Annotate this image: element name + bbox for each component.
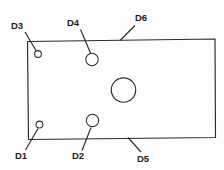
plate-drawing-svg [0, 0, 224, 170]
technical-drawing-canvas: D3D4D6D1D2D5 [0, 0, 224, 170]
dim-label-d2: D2 [72, 151, 84, 161]
dim-label-d4: D4 [67, 18, 79, 28]
dim-label-d5: D5 [137, 154, 149, 164]
hole-d3 [35, 51, 42, 58]
holes-group [35, 51, 136, 128]
dim-label-d3: D3 [11, 21, 23, 31]
hole-d2 [86, 114, 98, 126]
hole-d1 [36, 121, 43, 128]
leader-d5 [128, 138, 141, 153]
dim-label-d1: D1 [15, 151, 27, 161]
hole-center [111, 78, 135, 102]
dim-label-d6: D6 [135, 13, 147, 23]
leader-lines-group [25, 26, 141, 153]
hole-d4 [86, 53, 98, 65]
plate-outline [28, 39, 216, 140]
leader-d6 [120, 26, 135, 41]
